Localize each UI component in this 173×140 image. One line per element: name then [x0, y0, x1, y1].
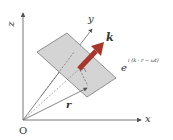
- expression-base: e: [121, 63, 127, 73]
- k-label: k: [106, 32, 114, 43]
- z-axis-label: z: [6, 21, 16, 26]
- projection-line: [23, 70, 78, 120]
- x-axis-label: x: [145, 114, 151, 124]
- position-vector-r: [23, 88, 87, 120]
- expression-exponent: i (k · r − ωt): [128, 58, 159, 63]
- y-axis-label: y: [88, 14, 94, 24]
- origin-label: O: [19, 126, 27, 136]
- wavefront-plane: [37, 33, 116, 97]
- r-label: r: [66, 100, 71, 110]
